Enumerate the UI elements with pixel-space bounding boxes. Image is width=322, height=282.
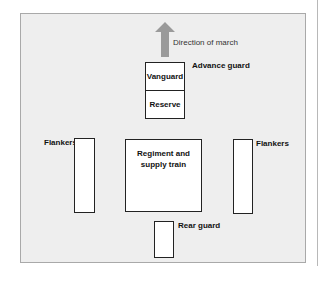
flankers-left-box (74, 138, 95, 213)
direction-of-march-label: Direction of march (173, 38, 238, 48)
page-edge-divider (317, 0, 318, 266)
regiment-supply-train-box: Regiment and supply train (125, 139, 202, 212)
rear-guard-label: Rear guard (178, 221, 220, 231)
reserve-cell: Reserve (146, 91, 184, 119)
advance-guard-box: Vanguard Reserve (145, 62, 185, 119)
rear-guard-box (154, 221, 174, 258)
direction-arrow-icon (155, 22, 175, 57)
regiment-label-line2: supply train (126, 159, 201, 170)
regiment-supply-train-label: Regiment and supply train (126, 148, 201, 170)
flankers-left-label: Flankers (44, 138, 77, 148)
vanguard-cell: Vanguard (146, 63, 184, 91)
regiment-label-line1: Regiment and (126, 148, 201, 159)
flankers-right-box (233, 139, 253, 214)
flankers-right-label: Flankers (256, 139, 289, 149)
advance-guard-label: Advance guard (192, 61, 250, 71)
